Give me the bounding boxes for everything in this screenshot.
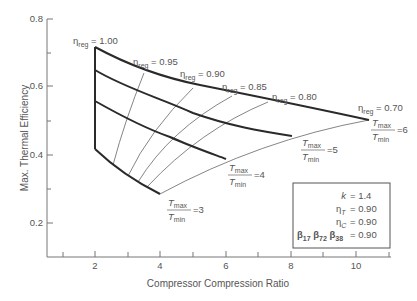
y-axis-label: Max. Thermal Efficiency bbox=[19, 85, 30, 191]
ratio-label-6: Tmax Tmin =6 bbox=[371, 117, 408, 143]
y-tick-0.4: 0.4 bbox=[30, 149, 43, 160]
x-tick-6: 6 bbox=[223, 260, 228, 271]
x-tick-2: 2 bbox=[92, 260, 97, 271]
y-tick-0.6: 0.6 bbox=[30, 80, 43, 91]
svg-text:Tmax: Tmax bbox=[302, 137, 322, 149]
svg-text:=5: =5 bbox=[327, 144, 338, 155]
svg-text:Tmin: Tmin bbox=[229, 176, 246, 188]
param-k-value: = 1.4 bbox=[350, 190, 371, 201]
ratio-label-4: Tmax Tmin =4 bbox=[228, 162, 265, 188]
curve-ratio-3 bbox=[95, 149, 160, 194]
param-eta-c-value: = 0.90 bbox=[350, 216, 377, 227]
svg-text:Tmin: Tmin bbox=[168, 211, 185, 223]
eta-reg-090-line bbox=[128, 88, 193, 176]
svg-text:Tmin: Tmin bbox=[372, 131, 389, 143]
eta-reg-080-label: ηreg = 0.80 bbox=[272, 91, 317, 105]
eta-reg-070-label: ηreg = 0.70 bbox=[358, 102, 403, 116]
param-betas-value: = 0.90 bbox=[350, 229, 377, 240]
svg-text:=3: =3 bbox=[193, 204, 204, 215]
x-axis-label: Compressor Compression Ratio bbox=[147, 278, 290, 289]
y-tick-0.8: 0.8 bbox=[30, 13, 43, 24]
eta-reg-085-label: ηreg = 0.85 bbox=[222, 81, 267, 95]
ratio-label-5: Tmax Tmin =5 bbox=[301, 137, 338, 163]
svg-text:=6: =6 bbox=[397, 124, 408, 135]
param-eta-t-value: = 0.90 bbox=[350, 203, 377, 214]
parameter-box: k = 1.4 ηT = 0.90 ηC = 0.90 β17 β72 β38 … bbox=[293, 183, 390, 248]
svg-text:Tmin: Tmin bbox=[302, 151, 319, 163]
x-tick-4: 4 bbox=[157, 260, 162, 271]
x-tick-10: 10 bbox=[351, 260, 362, 271]
y-tick-0.2: 0.2 bbox=[30, 217, 43, 228]
svg-text:Tmax: Tmax bbox=[168, 197, 188, 209]
eta-reg-080-line bbox=[147, 102, 268, 187]
efficiency-chart: 0.8 0.6 0.4 0.2 2 4 6 8 10 Compressor Co… bbox=[0, 0, 417, 301]
curve-ratio-4 bbox=[95, 101, 226, 159]
svg-text:=4: =4 bbox=[254, 169, 265, 180]
x-tick-8: 8 bbox=[288, 260, 293, 271]
y-tick-labels: 0.8 0.6 0.4 0.2 bbox=[30, 13, 43, 228]
eta-reg-095-label: ηreg = 0.95 bbox=[133, 56, 178, 70]
eta-reg-090-label: ηreg = 0.90 bbox=[180, 68, 225, 82]
svg-text:Tmax: Tmax bbox=[372, 117, 392, 129]
svg-text:Tmax: Tmax bbox=[229, 162, 249, 174]
ratio-label-3: Tmax Tmin =3 bbox=[167, 197, 204, 223]
eta-reg-annotations: ηreg = 1.00 ηreg = 0.95 ηreg = 0.90 ηreg… bbox=[73, 35, 403, 116]
x-tick-labels: 2 4 6 8 10 bbox=[92, 260, 361, 271]
